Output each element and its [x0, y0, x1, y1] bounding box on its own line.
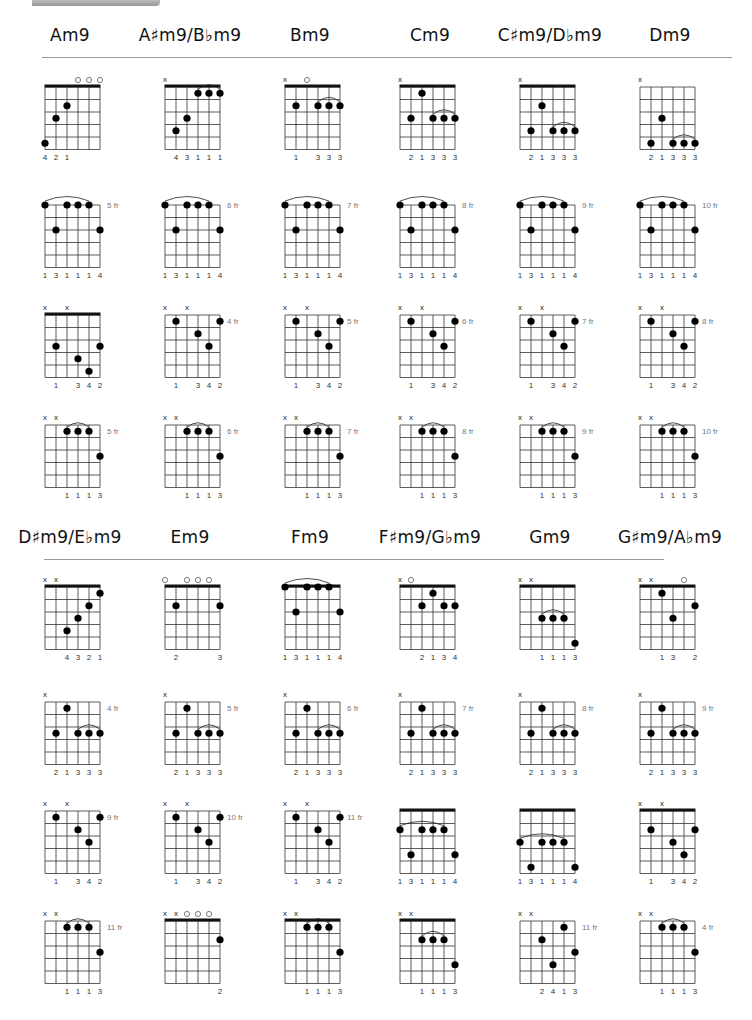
svg-text:3: 3 — [671, 877, 676, 886]
svg-text:4: 4 — [207, 381, 212, 390]
svg-text:3: 3 — [338, 768, 343, 777]
svg-text:3: 3 — [671, 153, 676, 162]
svg-text:x: x — [43, 575, 47, 584]
svg-text:x: x — [529, 909, 533, 918]
chord-diagram: x2134 — [370, 565, 490, 675]
svg-text:3: 3 — [453, 768, 458, 777]
chord-diagram: xx1113 — [255, 899, 375, 1009]
svg-text:1: 1 — [562, 877, 567, 886]
svg-text:x: x — [529, 413, 533, 422]
svg-text:x: x — [638, 799, 642, 808]
svg-text:1: 1 — [54, 381, 59, 390]
svg-text:x: x — [185, 799, 189, 808]
svg-text:4: 4 — [573, 271, 578, 280]
svg-text:1: 1 — [76, 271, 81, 280]
svg-text:1: 1 — [294, 877, 299, 886]
svg-text:1: 1 — [316, 271, 321, 280]
svg-text:1: 1 — [196, 491, 201, 500]
svg-text:4: 4 — [338, 653, 343, 662]
chord-diagram: 131114 — [255, 565, 375, 675]
svg-text:x: x — [283, 690, 287, 699]
svg-text:3: 3 — [442, 653, 447, 662]
chord-diagram: xx5 fr1342 — [255, 293, 375, 403]
svg-text:3: 3 — [54, 271, 59, 280]
svg-text:1: 1 — [196, 271, 201, 280]
chord-diagram: x8 fr21333 — [490, 680, 610, 790]
svg-text:7 fr: 7 fr — [347, 427, 359, 436]
svg-text:8 fr: 8 fr — [462, 427, 474, 436]
svg-text:3: 3 — [327, 153, 332, 162]
svg-text:3: 3 — [551, 381, 556, 390]
svg-text:x: x — [649, 575, 653, 584]
svg-text:x: x — [54, 909, 58, 918]
svg-text:3: 3 — [573, 987, 578, 996]
svg-text:4: 4 — [453, 653, 458, 662]
svg-text:x: x — [294, 909, 298, 918]
svg-text:1: 1 — [65, 153, 70, 162]
chord-title: Am9 — [10, 25, 130, 45]
svg-text:1: 1 — [442, 271, 447, 280]
svg-text:x: x — [409, 909, 413, 918]
svg-text:11 fr: 11 fr — [582, 923, 598, 932]
svg-text:1: 1 — [431, 271, 436, 280]
svg-text:x: x — [660, 303, 664, 312]
svg-text:2: 2 — [218, 877, 223, 886]
svg-text:3: 3 — [671, 381, 676, 390]
svg-text:x: x — [163, 799, 167, 808]
svg-text:1: 1 — [660, 653, 665, 662]
svg-text:1: 1 — [431, 987, 436, 996]
chord-diagram: xx1113 — [370, 899, 490, 1009]
svg-text:x: x — [283, 303, 287, 312]
svg-text:3: 3 — [98, 768, 103, 777]
svg-text:1: 1 — [420, 987, 425, 996]
svg-text:2: 2 — [174, 768, 179, 777]
svg-text:1: 1 — [551, 491, 556, 500]
svg-text:x: x — [163, 303, 167, 312]
svg-text:1: 1 — [294, 153, 299, 162]
svg-text:10 fr: 10 fr — [702, 201, 718, 210]
svg-text:1: 1 — [540, 653, 545, 662]
svg-text:5 fr: 5 fr — [347, 317, 359, 326]
svg-text:3: 3 — [98, 987, 103, 996]
svg-text:3: 3 — [196, 877, 201, 886]
svg-text:3: 3 — [196, 381, 201, 390]
svg-text:4: 4 — [43, 153, 48, 162]
chord-title: D♯m9/E♭m9 — [10, 527, 130, 547]
svg-text:1: 1 — [409, 381, 414, 390]
svg-text:10 fr: 10 fr — [702, 427, 718, 436]
svg-text:3: 3 — [76, 877, 81, 886]
svg-text:1: 1 — [660, 491, 665, 500]
chord-diagram: x7 fr21333 — [370, 680, 490, 790]
svg-text:1: 1 — [529, 381, 534, 390]
svg-text:x: x — [174, 413, 178, 422]
chord-diagram: xx4 fr1113 — [610, 899, 730, 1009]
svg-text:1: 1 — [442, 877, 447, 886]
svg-text:x: x — [163, 690, 167, 699]
svg-text:3: 3 — [573, 768, 578, 777]
chord-diagram: x21333 — [610, 65, 730, 175]
svg-text:1: 1 — [420, 877, 425, 886]
svg-text:1: 1 — [518, 271, 523, 280]
svg-text:3: 3 — [431, 153, 436, 162]
chord-diagram: xx6 fr1113 — [135, 403, 255, 513]
svg-text:1: 1 — [431, 653, 436, 662]
svg-text:x: x — [398, 413, 402, 422]
svg-text:x: x — [174, 909, 178, 918]
svg-text:x: x — [283, 75, 287, 84]
chord-diagram: x1333 — [255, 65, 375, 175]
svg-text:3: 3 — [316, 153, 321, 162]
svg-text:x: x — [283, 413, 287, 422]
svg-text:x: x — [294, 413, 298, 422]
svg-text:4: 4 — [453, 271, 458, 280]
svg-text:1: 1 — [87, 491, 92, 500]
svg-text:x: x — [283, 909, 287, 918]
svg-text:1: 1 — [305, 653, 310, 662]
svg-text:3: 3 — [693, 768, 698, 777]
svg-text:3: 3 — [316, 877, 321, 886]
svg-text:1: 1 — [638, 271, 643, 280]
chord-diagram: xx11 fr2413 — [490, 899, 610, 1009]
chord-diagram: xx4 fr1342 — [135, 293, 255, 403]
svg-text:1: 1 — [327, 491, 332, 500]
svg-text:3: 3 — [693, 987, 698, 996]
svg-text:1: 1 — [87, 271, 92, 280]
